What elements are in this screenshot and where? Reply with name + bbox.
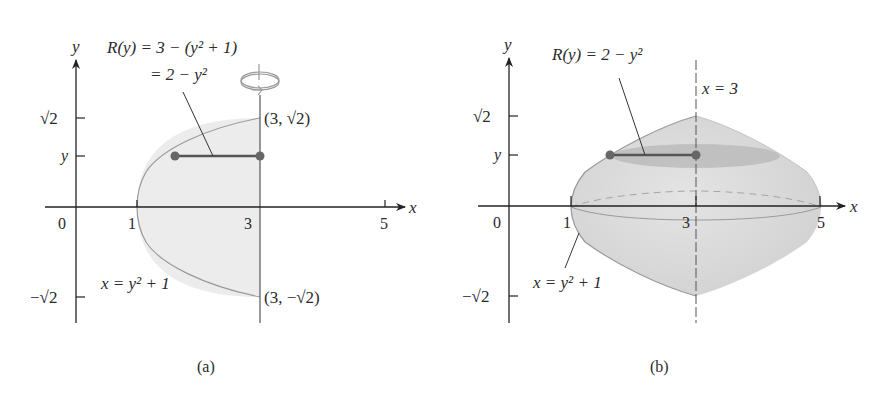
y-tick-label-neg-sqrt2: −√2 [30, 288, 57, 307]
curve-leader-line [565, 233, 579, 268]
panel-a: y x 0 1 3 5 √2 y −√2 R(y) = 3 − (y² + 1)… [30, 37, 417, 376]
axis-of-rotation-label: x = 3 [701, 79, 738, 98]
y-tick-label-sqrt2: √2 [40, 109, 58, 128]
curve-label: x = y² + 1 [532, 273, 602, 292]
x-tick-label-0: 0 [493, 214, 501, 231]
radius-formula-line2: = 2 − y² [150, 65, 208, 84]
x-tick-label-3: 3 [244, 215, 252, 232]
x-tick-label-3: 3 [682, 214, 690, 231]
rotate-about-axis-icon [241, 64, 279, 95]
segment-endpoint-right [256, 152, 265, 161]
x-axis-label: x [408, 198, 417, 217]
caption-a: (a) [197, 358, 215, 376]
x-tick-label-1: 1 [563, 214, 571, 231]
curve-label: x = y² + 1 [100, 274, 170, 293]
x-axis-label: x [849, 197, 858, 216]
y-tick-label-y: y [492, 146, 502, 164]
point-label-top: (3, √2) [264, 109, 310, 128]
caption-b: (b) [650, 358, 669, 376]
segment-endpoint-left [606, 151, 615, 160]
y-tick-label-y: y [59, 147, 69, 165]
x-tick-label-0: 0 [58, 215, 66, 232]
panel-b: y x 0 1 3 5 √2 y −√2 R(y) = 2 − y² x = 3… [462, 35, 858, 376]
y-tick-label-sqrt2: √2 [473, 107, 491, 126]
y-tick-label-neg-sqrt2: −√2 [462, 287, 489, 306]
y-axis-label: y [502, 35, 512, 54]
radius-formula: R(y) = 2 − y² [551, 45, 643, 64]
segment-endpoint-left [171, 152, 180, 161]
x-tick-label-1: 1 [128, 215, 136, 232]
x-tick-label-5: 5 [380, 215, 388, 232]
x-tick-label-5: 5 [817, 214, 825, 231]
figure: y x 0 1 3 5 √2 y −√2 R(y) = 3 − (y² + 1)… [0, 0, 893, 405]
point-label-bottom: (3, −√2) [264, 288, 320, 307]
radius-formula-line1: R(y) = 3 − (y² + 1) [106, 38, 237, 57]
segment-endpoint-right [692, 151, 701, 160]
y-axis-label: y [70, 37, 80, 56]
